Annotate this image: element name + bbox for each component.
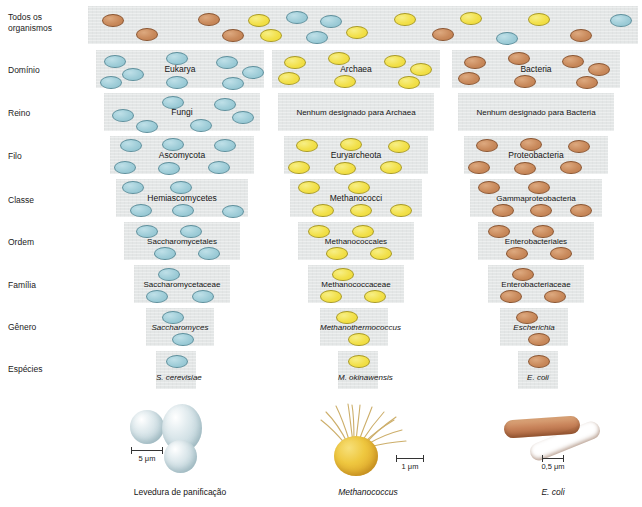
taxon-name-classe-gammaproteobacteria: Gammaproteobacteria [470,194,602,203]
archaea-oval [312,204,334,217]
band-familia-enterobacteriaceae: Enterobacteriaceae [488,265,584,303]
organism-oval [394,13,416,26]
organism-oval [610,14,632,27]
scalebar-label-methanococcus: 1 μm [402,462,419,471]
archaea-oval [348,355,370,368]
band-classe-methanococci: Methanococci [290,179,422,217]
organism-oval [260,29,282,42]
bacteria-oval [468,161,490,174]
band-reino-bacteria: Nenhum designado para Bacteria [458,93,614,131]
band-dominio-bacteria: Bacteria [452,50,620,88]
band-ordem-saccharomycetales: Saccharomycetales [124,222,240,260]
archaea-oval [380,161,402,174]
rank-label-line1: Todos os [8,12,82,23]
archaea-oval [334,162,356,175]
taxon-name-genero-escherichia: Escherichia [500,323,568,332]
figure-caption-methanococcus: Methanococcus [268,487,468,497]
rank-label-dominio: Domínio [8,65,82,76]
eukarya-oval [136,120,158,133]
bacteria-oval [528,355,550,368]
organism-oval [346,26,368,39]
taxon-name-dominio-eukarya: Eukarya [96,64,264,74]
scalebar-cap-right [423,455,424,462]
bacteria-oval [528,181,550,194]
band-familia-methanococcaceae: Methanococcaceae [308,265,404,303]
band-genero-saccharomyces: Saccharomyces [146,308,214,346]
rank-label-filo: Filo [8,151,82,162]
taxon-name-classe-methanococci: Methanococci [290,193,422,203]
scalebar-cap-left [542,455,543,462]
eukarya-oval [146,290,168,303]
taxon-name-ordem-saccharomycetales: Saccharomycetales [124,237,240,246]
band-especies-m-okinawensis: M. okinawensis [338,351,378,389]
eukarya-oval [158,162,180,175]
band-reino-archaea: Nenhum designado para Archaea [278,93,434,131]
taxon-name-genero-methanothermococcus: Methanothermococcus [320,323,388,332]
organism-oval [222,29,244,42]
scalebar-line [396,458,424,459]
rank-label-genero: Gênero [8,322,82,333]
taxon-name-ordem-methanococcales: Methanococcales [298,237,414,246]
band-reino-fungi: Fungi [104,93,260,131]
band-especies-e-coli: E. coli [518,351,558,389]
organism-oval [286,11,308,24]
taxon-name-especies-e-coli: E. coli [518,372,558,381]
scalebar-cap-right [563,455,564,462]
taxon-name-classe-hemiascomycetes: Hemiascomycetes [116,193,248,203]
archaea-oval [288,161,310,174]
bacteria-oval [500,290,522,303]
eukarya-oval [192,290,214,303]
eukarya-oval [190,119,212,132]
band-especies-s-cerevisiae: S. cerevisiae [156,351,196,389]
taxon-name-familia-saccharomycetaceae: Saccharomycetaceae [134,280,230,289]
rank-label-ordem: Ordem [8,237,82,248]
rank-label-todos-os-organismos: Todos os organismos [8,12,82,33]
bacteria-oval [544,290,566,303]
band-genero-methanothermococcus: Methanothermococcus [320,308,388,346]
scalebar-cap-left [396,455,397,462]
eukarya-oval [100,76,122,89]
figure-caption-ecoli: E. coli [473,487,633,497]
organism-oval [320,15,342,28]
taxon-name-filo-euryarcheota: Euryarcheota [284,150,428,160]
band-filo-euryarcheota: Euryarcheota [284,136,428,174]
bacteria-oval [506,247,528,260]
bacteria-oval [560,161,582,174]
taxon-name-reino-fungi: Fungi [104,107,260,117]
scalebar-line [542,458,564,459]
band-todos-os-organismos [88,6,638,44]
band-filo-ascomycota: Ascomycota [110,136,254,174]
archaea-oval [364,290,386,303]
band-ordem-methanococcales: Methanococcales [298,222,414,260]
band-classe-gammaproteobacteria: Gammaproteobacteria [470,179,602,217]
eukarya-oval [198,247,220,260]
eukarya-oval [166,355,188,368]
figure-caption-yeast: Levedura de panificação [70,487,290,497]
band-dominio-archaea: Archaea [272,50,440,88]
figure-methanococcus [312,398,442,476]
organism-oval [496,32,518,45]
scalebar-label-yeast: 5 μm [139,454,156,463]
methanococcus-cell-body [334,436,378,476]
band-texture [88,6,638,44]
archaea-oval [398,76,420,89]
organism-oval [432,28,454,41]
band-classe-hemiascomycetes: Hemiascomycetes [116,179,248,217]
figure-ecoli [500,410,620,470]
eukarya-oval [222,205,244,218]
bacteria-oval [550,247,572,260]
archaea-oval [334,75,356,88]
rank-label-line2: organismos [8,23,82,34]
scalebar-label-ecoli: 0,5 μm [541,462,564,471]
band-familia-saccharomycetaceae: Saccharomycetaceae [134,265,230,303]
rank-label-familia: Família [8,280,82,291]
band-filo-proteobacteria: Proteobacteria [464,136,608,174]
rank-label-classe: Classe [8,195,82,206]
taxon-name-especies-s-cerevisiae: S. cerevisiae [156,372,196,381]
taxon-name-dominio-bacteria: Bacteria [452,64,620,74]
organism-oval [306,31,328,44]
bacteria-oval [478,181,500,194]
taxon-name-filo-proteobacteria: Proteobacteria [464,150,608,160]
bacteria-oval [492,204,514,217]
yeast-cell [164,440,197,473]
